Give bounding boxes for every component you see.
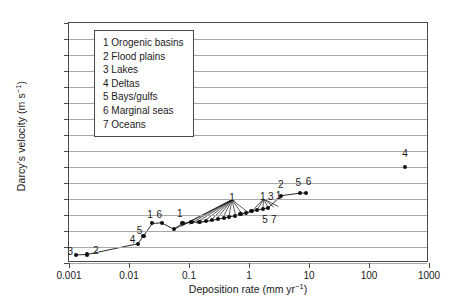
data-point-label: 7 [271, 214, 277, 225]
data-point [238, 212, 242, 216]
data-point [261, 207, 265, 211]
data-point-label: 1 [177, 207, 183, 218]
x-axis-tick-label: 0.01 [99, 270, 159, 281]
x-axis-title-text: Deposition rate (mm yr−1) [189, 283, 307, 295]
data-point-label: 5 [262, 213, 268, 224]
data-point [304, 191, 308, 195]
gridline [69, 247, 427, 248]
data-point [298, 191, 302, 195]
data-point [150, 221, 154, 225]
data-point [160, 221, 164, 225]
data-point [227, 215, 231, 219]
data-point-label: 5 [137, 225, 143, 236]
data-point [222, 216, 226, 220]
x-axis-tick-label: 0.1 [159, 270, 219, 281]
gridline [69, 183, 427, 184]
legend-item-1: 1 Orogenic basins [103, 36, 184, 50]
data-point-label: 4 [402, 148, 408, 159]
gridline [69, 231, 427, 232]
y-axis-tick [64, 103, 69, 104]
data-point-label: 3 [67, 245, 73, 256]
legend-item-5: 5 Bays/gulfs [103, 90, 184, 104]
data-point-label: 1 [276, 190, 282, 201]
x-axis-tick [129, 263, 130, 268]
x-axis-tick [429, 263, 430, 268]
data-point [403, 165, 407, 169]
data-point [74, 253, 78, 257]
legend: 1 Orogenic basins2 Flood plains3 Lakes4 … [94, 30, 194, 137]
y-axis-tick [64, 71, 69, 72]
x-axis-tick-label: 1000 [399, 270, 459, 281]
data-point-label: 3 [268, 190, 274, 201]
y-axis-title-text: Darcy's velocity (m s−1) [15, 81, 27, 191]
data-point-label: 2 [93, 244, 99, 255]
x-axis-tick-label: 100 [339, 270, 399, 281]
data-point [255, 208, 259, 212]
y-axis-tick [64, 119, 69, 120]
y-axis-tick [64, 151, 69, 152]
data-point-label: 6 [157, 209, 163, 220]
y-axis-tick [64, 199, 69, 200]
x-axis-tick-label: 10 [279, 270, 339, 281]
data-point [136, 242, 140, 246]
figure: Darcy's velocity (m s−1) 1010.10.010.001… [0, 0, 461, 307]
y-axis-tick [64, 23, 69, 24]
y-axis-title: Darcy's velocity (m s−1) [15, 41, 27, 231]
y-axis-tick [64, 135, 69, 136]
data-point [189, 220, 193, 224]
y-axis-tick [64, 55, 69, 56]
legend-item-3: 3 Lakes [103, 63, 184, 77]
gridline [69, 151, 427, 152]
legend-item-6: 6 Marginal seas [103, 104, 184, 118]
y-axis-tick [64, 87, 69, 88]
gridline [69, 263, 427, 264]
data-point-label: 4 [130, 234, 136, 245]
data-point [210, 218, 214, 222]
x-axis-tick [309, 263, 310, 268]
data-point-label: 6 [306, 176, 312, 187]
data-point [197, 220, 201, 224]
legend-item-2: 2 Flood plains [103, 50, 184, 64]
data-point [266, 206, 270, 210]
x-axis-title: Deposition rate (mm yr−1) [68, 283, 428, 295]
data-point [216, 217, 220, 221]
legend-item-7: 7 Oceans [103, 118, 184, 132]
data-point [233, 214, 237, 218]
data-point [204, 219, 208, 223]
gridline [69, 167, 427, 168]
data-point-label: 1 [229, 191, 235, 202]
gridline [69, 215, 427, 216]
x-axis-tick [369, 263, 370, 268]
data-point-label: 2 [278, 178, 284, 189]
y-axis-tick [64, 39, 69, 40]
x-axis-tick-label: 1 [219, 270, 279, 281]
x-axis-tick [69, 263, 70, 268]
y-axis-tick [64, 231, 69, 232]
x-axis-tick-label: 0.001 [39, 270, 99, 281]
gridline [69, 199, 427, 200]
y-axis-tick [64, 215, 69, 216]
y-axis-tick [64, 183, 69, 184]
data-point [85, 252, 89, 256]
y-axis-tick [64, 167, 69, 168]
x-axis-tick [189, 263, 190, 268]
data-point [180, 221, 184, 225]
data-point-label: 1 [147, 209, 153, 220]
data-point-label: 1 [260, 191, 266, 202]
data-point-label: 5 [295, 177, 301, 188]
legend-item-4: 4 Deltas [103, 77, 184, 91]
data-point [249, 209, 253, 213]
x-axis-tick [249, 263, 250, 268]
